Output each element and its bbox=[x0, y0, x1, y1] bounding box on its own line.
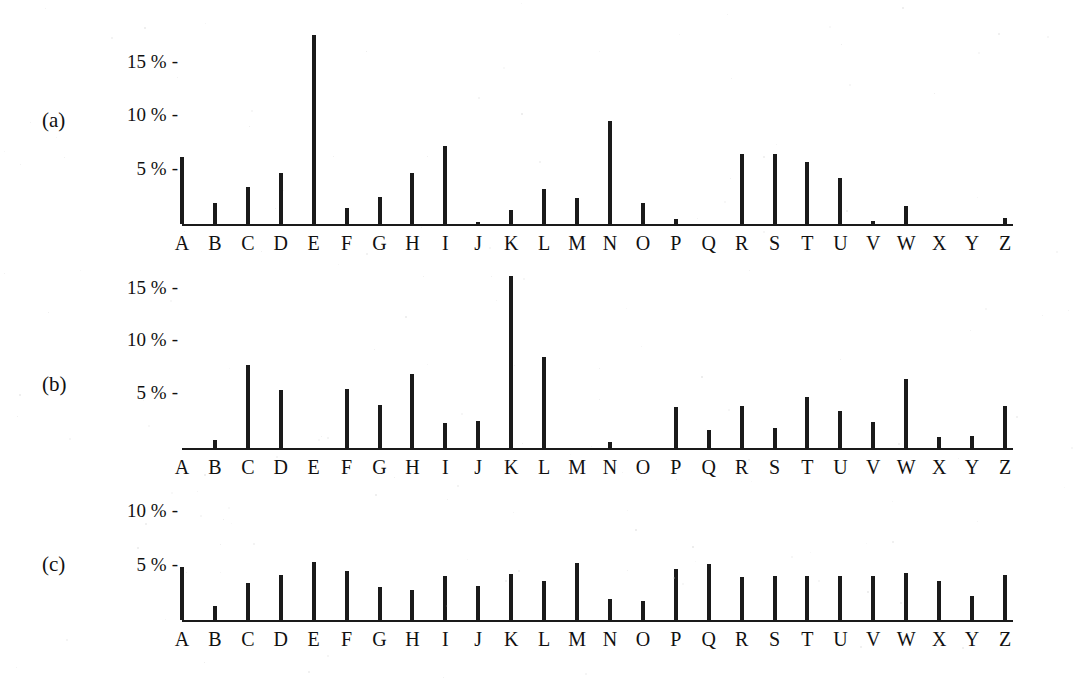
y-tick-10: 10 %- bbox=[127, 330, 178, 349]
x-label-M: M bbox=[567, 626, 587, 652]
bar-L bbox=[542, 581, 546, 620]
paper-speckle bbox=[1056, 251, 1058, 253]
paper-speckle bbox=[4, 273, 5, 274]
y-tick-10: 10 %- bbox=[127, 105, 178, 124]
bar-S bbox=[773, 576, 777, 620]
paper-speckle bbox=[327, 655, 329, 657]
bar-F bbox=[345, 571, 349, 620]
x-label-K: K bbox=[501, 626, 521, 652]
y-tick-dash-icon: - bbox=[172, 277, 178, 296]
paper-speckle bbox=[585, 673, 587, 675]
paper-speckle bbox=[16, 667, 17, 668]
paper-speckle bbox=[111, 37, 113, 39]
x-label-N: N bbox=[600, 626, 620, 652]
bar-B bbox=[213, 606, 217, 620]
paper-speckle bbox=[171, 492, 173, 494]
y-tick-dash-icon: - bbox=[172, 500, 178, 519]
y-tick-label: 5 % bbox=[137, 158, 167, 179]
x-label-A: A bbox=[172, 626, 192, 652]
x-label-T: T bbox=[797, 626, 817, 652]
y-tick-label: 10 % bbox=[127, 104, 167, 125]
bar-I bbox=[443, 576, 447, 620]
y-tick-label: 15 % bbox=[127, 277, 167, 298]
x-label-Z: Z bbox=[995, 626, 1015, 652]
paper-speckle bbox=[4, 151, 5, 152]
paper-speckle bbox=[56, 137, 57, 138]
x-label-W: W bbox=[896, 626, 916, 652]
y-tick-15: 15 %- bbox=[127, 278, 178, 297]
y-tick-dash-icon: - bbox=[172, 51, 178, 70]
paper-speckle bbox=[1064, 487, 1065, 488]
x-label-F: F bbox=[337, 626, 357, 652]
y-tick-dash-icon: - bbox=[172, 554, 178, 573]
paper-speckle bbox=[145, 523, 147, 525]
y-tick-dash-icon: - bbox=[172, 158, 178, 177]
x-label-V: V bbox=[863, 626, 883, 652]
x-label-J: J bbox=[468, 626, 488, 652]
paper-speckle bbox=[204, 662, 205, 663]
y-tick-dash-icon: - bbox=[172, 329, 178, 348]
bar-D bbox=[279, 575, 283, 620]
x-label-I: I bbox=[435, 626, 455, 652]
bar-Y bbox=[970, 596, 974, 620]
paper-speckle bbox=[148, 425, 150, 427]
paper-speckle bbox=[66, 639, 68, 641]
paper-speckle bbox=[20, 164, 21, 165]
bar-E bbox=[312, 562, 316, 620]
x-label-G: G bbox=[370, 626, 390, 652]
bar-T bbox=[805, 576, 809, 620]
bar-P bbox=[674, 569, 678, 620]
x-label-S: S bbox=[765, 626, 785, 652]
y-tick-5: 5 %- bbox=[137, 159, 178, 178]
paper-speckle bbox=[1068, 310, 1069, 311]
bar-Z bbox=[1003, 575, 1007, 620]
bar-O bbox=[641, 601, 645, 620]
y-tick-label: 15 % bbox=[127, 51, 167, 72]
paper-speckle bbox=[170, 300, 172, 302]
x-label-U: U bbox=[830, 626, 850, 652]
y-tick-label: 10 % bbox=[127, 500, 167, 521]
bar-Q bbox=[707, 564, 711, 620]
x-label-Y: Y bbox=[962, 626, 982, 652]
x-label-Q: Q bbox=[699, 626, 719, 652]
bar-C bbox=[246, 583, 250, 620]
bar-J bbox=[476, 586, 480, 620]
y-tick-10: 10 %- bbox=[127, 501, 178, 520]
paper-speckle bbox=[64, 157, 65, 158]
paper-speckle bbox=[17, 416, 18, 417]
paper-speckle bbox=[19, 394, 21, 396]
x-axis-labels: ABCDEFGHIJKLMNOPQRSTUVWXYZ bbox=[182, 626, 1013, 652]
paper-speckle bbox=[1042, 315, 1043, 316]
bar-V bbox=[871, 576, 875, 620]
bar-M bbox=[575, 563, 579, 620]
paper-speckle bbox=[177, 77, 178, 78]
y-tick-label: 5 % bbox=[137, 554, 167, 575]
y-tick-label: 5 % bbox=[137, 382, 167, 403]
paper-speckle bbox=[165, 619, 166, 620]
y-tick-5: 5 %- bbox=[137, 383, 178, 402]
letter-frequency-figure: (a)15 %-10 %-5 %-ABCDEFGHIJKLMNOPQRSTUVW… bbox=[0, 0, 1074, 694]
y-tick-15: 15 %- bbox=[127, 52, 178, 71]
paper-speckle bbox=[137, 547, 139, 549]
x-label-D: D bbox=[271, 626, 291, 652]
panel-label: (c) bbox=[42, 552, 65, 577]
bar-U bbox=[838, 576, 842, 620]
bar-K bbox=[509, 574, 513, 620]
y-tick-dash-icon: - bbox=[172, 104, 178, 123]
paper-speckle bbox=[48, 312, 49, 313]
plot-area bbox=[182, 0, 1013, 620]
bar-X bbox=[937, 581, 941, 620]
x-label-E: E bbox=[304, 626, 324, 652]
panel-label: (b) bbox=[42, 372, 67, 397]
panel-label: (a) bbox=[42, 108, 65, 133]
paper-speckle bbox=[69, 438, 71, 440]
paper-speckle bbox=[443, 677, 444, 678]
paper-speckle bbox=[80, 270, 81, 271]
paper-speckle bbox=[1071, 447, 1073, 449]
bar-N bbox=[608, 599, 612, 620]
paper-speckle bbox=[144, 27, 146, 29]
paper-speckle bbox=[1016, 416, 1018, 418]
x-label-X: X bbox=[929, 626, 949, 652]
x-label-C: C bbox=[238, 626, 258, 652]
x-label-B: B bbox=[205, 626, 225, 652]
